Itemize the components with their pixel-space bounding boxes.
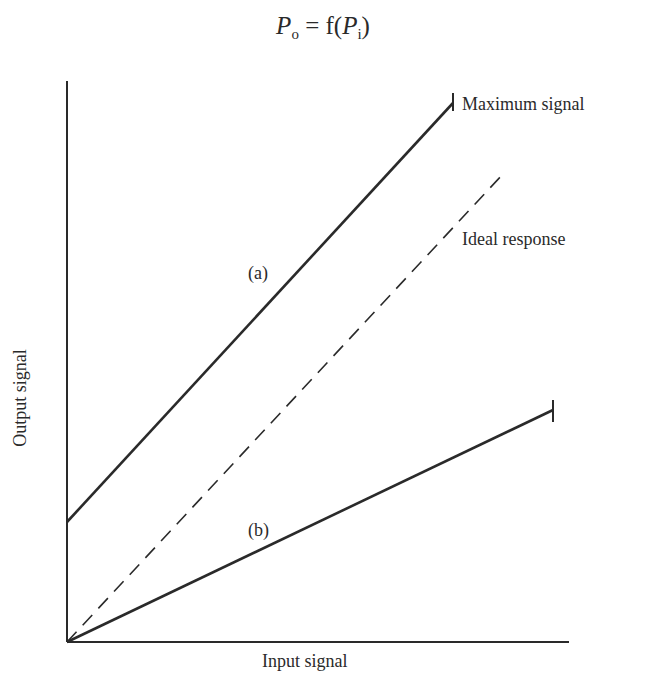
series-a-label: (a) [248, 263, 268, 284]
ideal-response-line [67, 174, 503, 642]
series-b-label: (b) [248, 520, 269, 541]
series-a-line [67, 103, 453, 522]
x-axis-label: Input signal [262, 651, 348, 672]
y-axis-label: Output signal [10, 349, 31, 447]
max-signal-label: Maximum signal [462, 94, 585, 115]
series-b-line [67, 410, 553, 642]
ideal-response-label: Ideal response [462, 229, 565, 250]
